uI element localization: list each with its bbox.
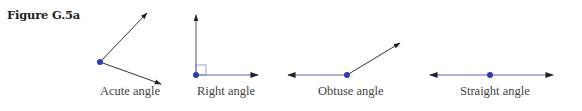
acute-angle: Acute angle bbox=[97, 13, 161, 98]
acute-angle-label: Acute angle bbox=[100, 84, 160, 98]
right-vertex-dot bbox=[193, 72, 199, 78]
straight-angle: Straight angle bbox=[430, 72, 553, 98]
obtuse-upper-ray bbox=[347, 43, 400, 75]
right-angle: Right angle bbox=[193, 15, 258, 98]
obtuse-angle: Obtuse angle bbox=[288, 43, 400, 98]
obtuse-angle-label: Obtuse angle bbox=[318, 84, 384, 98]
straight-vertex-dot bbox=[487, 72, 493, 78]
acute-upper-ray bbox=[100, 13, 147, 62]
obtuse-vertex-dot bbox=[344, 72, 350, 78]
acute-lower-ray bbox=[100, 62, 161, 84]
right-angle-label: Right angle bbox=[197, 84, 255, 98]
straight-angle-label: Straight angle bbox=[460, 84, 530, 98]
angle-types-diagram: Acute angle Right angle Obtuse angle Str… bbox=[0, 0, 582, 111]
acute-vertex-dot bbox=[97, 59, 103, 65]
